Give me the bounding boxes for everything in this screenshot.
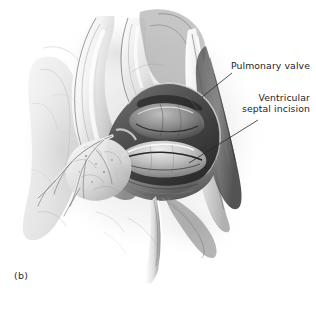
anatomical-illustration [0,0,316,322]
figure-container: Pulmonary valve Ventricular septal incis… [0,0,316,322]
annotation-label-ventricular-septal-incision: Ventricular septal incision [242,92,310,115]
annotation-line: Ventricular [242,92,310,103]
annotation-line: Pulmonary valve [231,60,310,71]
annotation-label-pulmonary-valve: Pulmonary valve [231,60,310,71]
pulmonary-valve-cusps [129,95,204,140]
figure-caption: (b) [14,270,28,281]
annotation-line: septal incision [242,103,310,114]
